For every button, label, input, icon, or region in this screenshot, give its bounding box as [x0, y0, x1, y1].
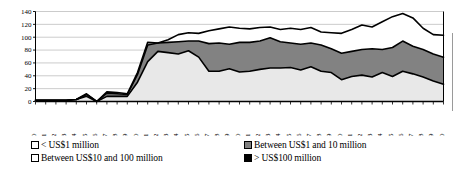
- svg-text:1962: 1962: [50, 133, 58, 136]
- svg-text:1980: 1980: [234, 133, 242, 136]
- svg-text:1960: 1960: [30, 133, 38, 136]
- svg-text:0: 0: [28, 98, 32, 106]
- svg-text:1969: 1969: [121, 133, 129, 136]
- svg-text:1968: 1968: [111, 133, 119, 136]
- legend-swatch-lt1m: [31, 141, 39, 149]
- svg-text:1996: 1996: [397, 133, 405, 136]
- area-bands: [36, 13, 444, 101]
- svg-text:1986: 1986: [295, 133, 303, 136]
- plot-area: 020406080100120140 196019611962196319641…: [0, 0, 467, 136]
- svg-text:100: 100: [21, 34, 32, 42]
- svg-text:40: 40: [25, 72, 33, 80]
- svg-text:1990: 1990: [336, 133, 344, 136]
- svg-text:1983: 1983: [264, 133, 272, 136]
- x-axis-ticks: 1960196119621963196419651966196719681969…: [30, 102, 446, 137]
- chart-figure: 020406080100120140 196019611962196319641…: [0, 0, 467, 181]
- svg-text:1987: 1987: [305, 133, 313, 136]
- svg-text:1961: 1961: [40, 133, 48, 136]
- legend-label-1to10m: Between US$1 and 10 million: [254, 140, 366, 150]
- legend-label-lt1m: < US$1 million: [41, 140, 99, 150]
- chart-legend: < US$1 million Between US$10 and 100 mil…: [0, 139, 467, 181]
- svg-text:1988: 1988: [315, 133, 323, 136]
- svg-text:1970: 1970: [132, 133, 140, 136]
- legend-label-gt100m: > US$100 million: [254, 153, 321, 163]
- svg-text:1993: 1993: [366, 133, 374, 136]
- svg-text:1998: 1998: [417, 133, 425, 136]
- svg-text:1977: 1977: [203, 133, 211, 136]
- svg-text:1978: 1978: [213, 133, 221, 136]
- legend-swatch-1to10m: [244, 141, 252, 149]
- svg-text:1974: 1974: [172, 133, 180, 136]
- svg-text:1989: 1989: [325, 133, 333, 136]
- legend-column-right: Between US$1 and 10 million > US$100 mil…: [244, 139, 366, 165]
- svg-text:1973: 1973: [162, 133, 170, 136]
- svg-text:1991: 1991: [346, 133, 354, 136]
- svg-text:1975: 1975: [183, 133, 191, 136]
- svg-text:1994: 1994: [376, 133, 384, 136]
- svg-text:1971: 1971: [142, 133, 150, 136]
- svg-text:1981: 1981: [244, 133, 252, 136]
- svg-text:1995: 1995: [387, 133, 395, 136]
- svg-text:1992: 1992: [356, 133, 364, 136]
- stacked-area-chart: 020406080100120140 196019611962196319641…: [0, 0, 467, 136]
- svg-text:1982: 1982: [254, 133, 262, 136]
- svg-text:60: 60: [25, 59, 33, 67]
- svg-text:1964: 1964: [70, 133, 78, 136]
- scan-artifact-line: [452, 33, 453, 111]
- svg-text:1965: 1965: [81, 133, 89, 136]
- svg-text:1997: 1997: [407, 133, 415, 136]
- svg-text:20: 20: [25, 85, 33, 93]
- svg-text:120: 120: [21, 21, 32, 29]
- legend-item: Between US$1 and 10 million: [244, 139, 366, 150]
- svg-text:2000: 2000: [438, 133, 446, 136]
- legend-column-left: < US$1 million Between US$10 and 100 mil…: [31, 139, 163, 165]
- legend-item: > US$100 million: [244, 152, 366, 163]
- svg-text:1984: 1984: [274, 133, 282, 136]
- svg-text:1972: 1972: [152, 133, 160, 136]
- y-axis-ticks: 020406080100120140: [21, 8, 36, 106]
- legend-swatch-10to100m: [31, 154, 39, 162]
- svg-text:1985: 1985: [285, 133, 293, 136]
- legend-item: Between US$10 and 100 million: [31, 152, 163, 163]
- legend-label-10to100m: Between US$10 and 100 million: [41, 153, 163, 163]
- svg-text:1967: 1967: [101, 133, 109, 136]
- legend-swatch-gt100m: [244, 154, 252, 162]
- svg-text:140: 140: [21, 8, 32, 16]
- svg-text:1999: 1999: [427, 133, 435, 136]
- svg-text:1966: 1966: [91, 133, 99, 136]
- svg-text:1963: 1963: [60, 133, 68, 136]
- svg-text:1976: 1976: [193, 133, 201, 136]
- legend-item: < US$1 million: [31, 139, 163, 150]
- svg-text:1979: 1979: [223, 133, 231, 136]
- svg-text:80: 80: [25, 46, 33, 54]
